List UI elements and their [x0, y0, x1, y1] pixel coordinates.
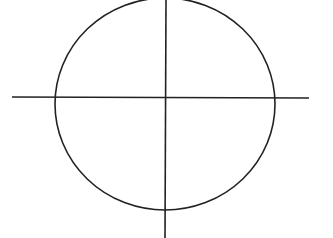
horizontal-axis-line: [12, 97, 309, 98]
vertical-axis-line: [165, 0, 166, 238]
circle-crosshair-diagram: [0, 0, 333, 238]
